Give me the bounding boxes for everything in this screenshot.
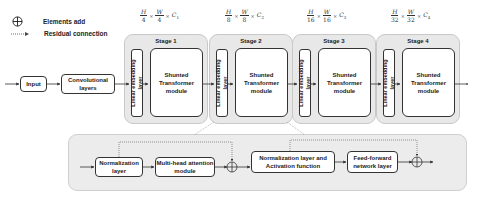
times: ×: [417, 13, 421, 19]
ffn-label: Feed-forward network layer: [348, 154, 397, 170]
w-den: 16: [323, 16, 331, 23]
h-den: 4: [142, 16, 146, 23]
ffn-box: Feed-forward network layer: [347, 151, 398, 173]
legend-elements-add-label: Elements add: [43, 18, 85, 25]
w-den: 4: [158, 16, 162, 23]
times: ×: [401, 13, 405, 19]
conv-label: Convolutional layers: [64, 76, 112, 92]
w-num: W: [155, 8, 163, 16]
embed-box: Linear embedding layer: [216, 49, 228, 117]
embed-label: Linear embedding layer: [298, 53, 312, 113]
times: ×: [149, 13, 153, 19]
c-sub: 2: [261, 15, 264, 20]
h-num: H: [307, 8, 314, 16]
norm-act-label: Normalization layer and Activation funct…: [252, 154, 334, 170]
h-den: 16: [307, 16, 315, 23]
w-den: 32: [407, 16, 415, 23]
stage-4: Stage 4 Linear embedding layer Shunted T…: [376, 34, 460, 124]
norm-layer-label: Normalization layer: [96, 159, 142, 175]
module-box: Shunted Transformer module: [235, 48, 288, 117]
embed-box: Linear embedding layer: [299, 49, 311, 117]
formula-stage-4: H32 × W32 × C4: [391, 8, 430, 23]
formula-stage-2: H8 × W8 × C2: [225, 8, 264, 23]
input-box: Input: [20, 76, 47, 92]
norm-layer-box: Normalization layer: [95, 157, 143, 177]
embed-label: Linear embedding layer: [382, 53, 396, 113]
h-den: 32: [391, 16, 399, 23]
w-num: W: [323, 8, 331, 16]
stage-title: Stage 1: [125, 38, 207, 44]
module-label: Shunted Transformer module: [403, 71, 454, 95]
module-label: Shunted Transformer module: [319, 71, 370, 95]
w-num: W: [240, 8, 248, 16]
norm-act-box: Normalization layer and Activation funct…: [251, 151, 335, 173]
legend-residual: Residual connection: [11, 30, 108, 37]
times: ×: [166, 13, 170, 19]
times: ×: [251, 13, 255, 19]
dotted-arrow-icon: [11, 31, 29, 37]
h-num: H: [140, 8, 147, 16]
embed-label: Linear embedding layer: [130, 53, 144, 113]
stage-1: Stage 1 Linear embedding layer Shunted T…: [124, 34, 208, 124]
legend-elements-add: Elements add: [12, 16, 85, 27]
module-label: Shunted Transformer module: [151, 71, 202, 95]
embed-box: Linear embedding layer: [131, 49, 143, 117]
c-sub: 3: [344, 15, 347, 20]
stage-3: Stage 3 Linear embedding layer Shunted T…: [292, 34, 376, 124]
c-sub: 4: [428, 15, 431, 20]
w-den: 8: [243, 16, 247, 23]
input-label: Input: [26, 80, 41, 88]
formula-stage-1: H4 × W4 × C1: [140, 8, 179, 23]
stage-title: Stage 4: [377, 38, 459, 44]
module-box: Shunted Transformer module: [150, 48, 203, 117]
times: ×: [317, 13, 321, 19]
w-num: W: [407, 8, 415, 16]
module-box: Shunted Transformer module: [402, 48, 455, 117]
conv-box: Convolutional layers: [61, 74, 115, 94]
h-num: H: [391, 8, 398, 16]
legend-residual-label: Residual connection: [44, 30, 108, 37]
stage-title: Stage 3: [293, 38, 375, 44]
module-label: Shunted Transformer module: [236, 71, 287, 95]
formula-stage-3: H16 × W16 × C3: [307, 8, 346, 23]
times: ×: [234, 13, 238, 19]
stage-title: Stage 2: [210, 38, 292, 44]
mha-label: Multi-head attention module: [156, 159, 214, 175]
mha-box: Multi-head attention module: [155, 157, 215, 177]
h-den: 8: [227, 16, 231, 23]
h-num: H: [225, 8, 232, 16]
module-box: Shunted Transformer module: [318, 48, 371, 117]
c-sub: 1: [176, 15, 179, 20]
stage-2: Stage 2 Linear embedding layer Shunted T…: [209, 34, 293, 124]
times: ×: [333, 13, 337, 19]
embed-label: Linear embedding layer: [215, 53, 229, 113]
embed-box: Linear embedding layer: [383, 49, 395, 117]
elements-add-icon: [12, 16, 23, 27]
